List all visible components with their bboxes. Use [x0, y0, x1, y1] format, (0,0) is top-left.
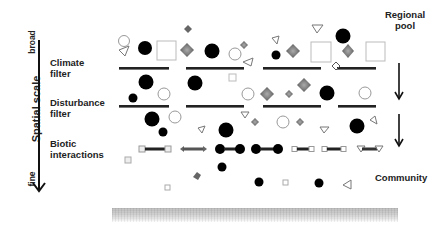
spatial-scale-arrow: [33, 40, 45, 191]
post-disturbance-species: [145, 111, 378, 138]
disturbance-filter-bars: [119, 105, 376, 108]
diagram-canvas: [0, 0, 443, 230]
filter-to-community-arrow: [395, 114, 403, 146]
regional-pool-species: [119, 25, 386, 70]
post-climate-species: [129, 74, 372, 103]
pool-to-climate-arrow: [395, 63, 403, 99]
biotic-interaction-pairs: [125, 144, 383, 163]
community-species: [165, 163, 351, 191]
